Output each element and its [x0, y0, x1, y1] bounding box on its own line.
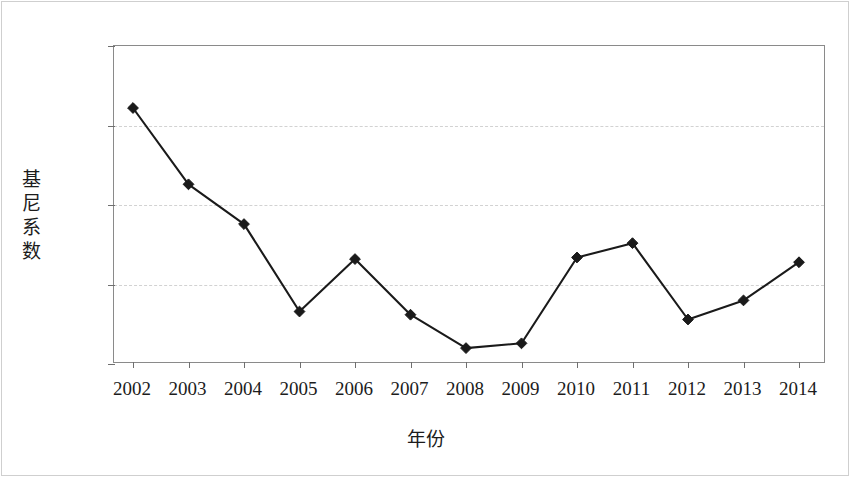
x-tick-label-2009: 2009 — [502, 378, 540, 400]
x-tick-label-2007: 2007 — [391, 378, 429, 400]
x-tick-label-2006: 2006 — [335, 378, 373, 400]
x-tick-label-2005: 2005 — [280, 378, 318, 400]
y-tick-0.45 — [108, 364, 115, 365]
series-markers — [128, 103, 805, 354]
line-series-gini — [114, 46, 826, 364]
plot-area — [113, 45, 825, 363]
x-axis-title: 年份 — [0, 424, 852, 451]
series-line — [133, 108, 799, 348]
x-tick-label-2012: 2012 — [668, 378, 706, 400]
chart-page: 基尼系数 0.450.500.550.600.65 20022003200420… — [0, 0, 852, 479]
data-point-2010 — [572, 252, 583, 263]
data-point-2008 — [461, 343, 472, 354]
x-tick-label-2003: 2003 — [169, 378, 207, 400]
x-tick-label-2010: 2010 — [557, 378, 595, 400]
data-point-2009 — [516, 338, 527, 349]
x-tick-label-2008: 2008 — [446, 378, 484, 400]
x-axis-tick-labels: 2002200320042005200620072008200920102011… — [0, 378, 852, 408]
x-tick-label-2002: 2002 — [113, 378, 151, 400]
x-tick-label-2013: 2013 — [724, 378, 762, 400]
x-tick-label-2011: 2011 — [613, 378, 650, 400]
x-tick-label-2014: 2014 — [779, 378, 817, 400]
x-tick-label-2004: 2004 — [224, 378, 262, 400]
